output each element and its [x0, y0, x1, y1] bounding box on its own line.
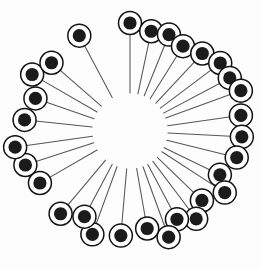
pin-head-core: [18, 113, 31, 126]
pin-head-core: [29, 92, 42, 105]
pin-head-core: [176, 40, 189, 53]
pin-head[interactable]: [24, 87, 47, 110]
pin-head[interactable]: [4, 136, 27, 159]
pin-head-core: [190, 212, 203, 225]
pin-head[interactable]: [157, 226, 180, 249]
pin-head[interactable]: [13, 108, 36, 131]
pin-head-core: [218, 186, 231, 199]
pin-head[interactable]: [136, 217, 159, 240]
pin-head-core: [145, 25, 158, 38]
pin-head[interactable]: [119, 12, 142, 35]
pin-head[interactable]: [225, 146, 248, 169]
pin-head-core: [78, 210, 91, 223]
pin-head-core: [170, 213, 183, 226]
pin-head-core: [195, 194, 208, 207]
pin-head-core: [54, 207, 67, 220]
pin-head[interactable]: [230, 125, 253, 148]
pin-head[interactable]: [229, 79, 252, 102]
pin-head-core: [141, 222, 154, 235]
pin-head-core: [33, 176, 46, 189]
pin-head-core: [45, 56, 58, 69]
pin-head-core: [196, 47, 209, 60]
pin-head-core: [86, 228, 99, 241]
pin-head[interactable]: [109, 224, 132, 247]
pin-head-core: [114, 229, 127, 242]
pin-head-core: [9, 141, 22, 154]
pin-head-core: [26, 68, 39, 81]
pin-head[interactable]: [68, 24, 91, 47]
pin-head-core: [19, 158, 32, 171]
pin-head-core: [123, 16, 136, 29]
pin-head-core: [234, 84, 247, 97]
pin-head-core: [234, 109, 247, 122]
pin-head[interactable]: [213, 181, 236, 204]
pin-head[interactable]: [49, 202, 72, 225]
pin-head-core: [235, 130, 248, 143]
pin-head[interactable]: [73, 205, 96, 228]
pin-head-core: [162, 231, 175, 244]
radial-pin-figure: [0, 0, 261, 269]
pin-canvas: [0, 0, 261, 269]
pin-head-core: [213, 168, 226, 181]
pin-head[interactable]: [229, 104, 252, 127]
pin-head-core: [73, 29, 86, 42]
pin-head[interactable]: [40, 51, 63, 74]
pin-head-core: [230, 151, 243, 164]
